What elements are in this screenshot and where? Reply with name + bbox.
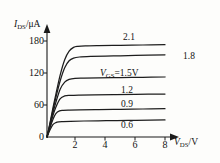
- vgs-symbol: V: [100, 68, 106, 78]
- x-axis-title-unit: /V: [189, 137, 199, 147]
- curve-vgs-0-9: [47, 109, 165, 137]
- curve-label-2-1: 2.1: [123, 33, 135, 43]
- x-axis-title: VDS/V: [174, 138, 198, 148]
- origin-label-0: 0: [20, 132, 44, 142]
- vgs-subscript: GS: [106, 72, 115, 79]
- curve-label-1-2: 1.2: [121, 86, 133, 96]
- x-tick-label-2: 2: [66, 140, 84, 150]
- y-tick-label-180: 180: [20, 36, 44, 46]
- y-axis-title-unit: /μA: [26, 19, 41, 29]
- transistor-output-characteristics-chart: IDS/μA VDS/V 180 120 60 0 2 4 6 8 2.1 1.…: [0, 0, 220, 163]
- x-tick-label-6: 6: [126, 140, 144, 150]
- curve-series-group: [47, 45, 165, 137]
- curve-vgs-0-6: [47, 120, 165, 137]
- curve-vgs-1-5: [47, 77, 165, 137]
- x-axis-title-subscript: DS: [180, 141, 189, 148]
- curve-label-1-8: 1.8: [183, 52, 195, 62]
- x-axis-title-symbol: V: [174, 137, 180, 147]
- curve-vgs-1-2: [47, 94, 165, 137]
- curve-label-0-9: 0.9: [121, 100, 133, 110]
- vgs-value: =1.5V: [115, 68, 139, 78]
- x-tick-label-4: 4: [96, 140, 114, 150]
- y-tick-label-120: 120: [20, 68, 44, 78]
- y-axis-arrow-icon: [44, 24, 51, 33]
- y-axis-title-subscript: DS: [17, 23, 26, 30]
- y-tick-label-60: 60: [20, 100, 44, 110]
- x-tick-label-8: 8: [156, 140, 174, 150]
- y-axis-title: IDS/μA: [14, 20, 40, 30]
- curve-vgs-2-1: [47, 45, 165, 137]
- curve-label-vgs-1-5v: VGS=1.5V: [100, 69, 139, 79]
- curve-label-0-6: 0.6: [121, 121, 133, 131]
